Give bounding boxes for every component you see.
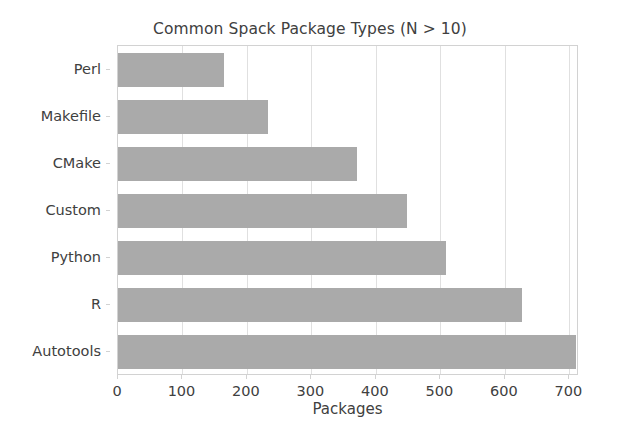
bar-series [118,46,577,374]
y-tick-label-custom: Custom [45,202,101,218]
bar-makefile [118,100,268,134]
x-tick-mark [375,375,376,379]
y-tick-label-makefile: Makefile [41,108,101,124]
x-tick-label-400: 400 [361,383,389,399]
x-tick-mark [246,375,247,379]
x-axis-title: Packages [117,400,578,418]
y-tick-mark [106,116,110,117]
x-tick-label-500: 500 [426,383,454,399]
y-tick-label-autotools: Autotools [32,343,101,359]
x-tick-label-0: 0 [112,383,121,399]
bar-r [118,288,522,322]
y-tick-mark [106,163,110,164]
y-tick-label-r: R [91,296,101,312]
y-tick-label-cmake: CMake [53,155,101,171]
x-tick-label-100: 100 [168,383,196,399]
x-tick-mark [439,375,440,379]
chart-title: Common Spack Package Types (N > 10) [0,20,620,38]
bar-cmake [118,147,357,181]
y-tick-mark [106,304,110,305]
x-tick-label-200: 200 [232,383,260,399]
y-tick-label-perl: Perl [74,61,101,77]
x-tick-mark [181,375,182,379]
y-tick-mark [106,210,110,211]
x-tick-mark [117,375,118,379]
y-tick-mark [106,69,110,70]
x-tick-label-700: 700 [554,383,582,399]
x-tick-label-300: 300 [297,383,325,399]
bar-python [118,241,446,275]
x-tick-label-600: 600 [490,383,518,399]
y-tick-label-python: Python [51,249,101,265]
bar-custom [118,194,407,228]
x-tick-mark [310,375,311,379]
y-tick-mark [106,257,110,258]
bar-autotools [118,335,576,369]
y-axis-tick-labels: PerlMakefileCMakeCustomPythonRAutotools [0,45,110,375]
x-tick-mark [568,375,569,379]
x-tick-mark [504,375,505,379]
chart-figure: Common Spack Package Types (N > 10) Perl… [0,0,620,444]
plot-area [117,45,578,375]
bar-perl [118,53,224,87]
y-tick-mark [106,351,110,352]
